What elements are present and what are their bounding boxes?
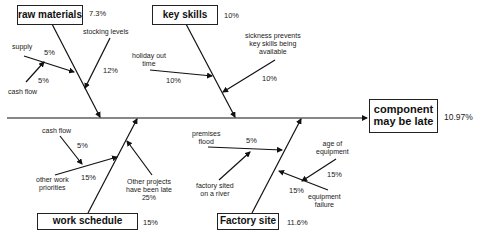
- cause-percent: 10%: [262, 74, 277, 83]
- cause-line: sickness prevents: [245, 32, 301, 40]
- key-skills-bone: [186, 24, 235, 117]
- cause-supply: supply: [12, 43, 32, 51]
- category-percent: 7.3%: [89, 9, 106, 18]
- cause-percent: 5%: [77, 141, 88, 150]
- cause-line: on a river: [196, 190, 234, 198]
- effect-percent: 10.97%: [444, 112, 473, 122]
- cause-line: other work: [36, 176, 69, 184]
- cause-line: equipment: [316, 148, 349, 156]
- cause-percent: 5%: [246, 136, 257, 145]
- cause-sickness: sickness prevents key skills being avail…: [245, 32, 301, 56]
- cause-percent: 25%: [126, 194, 172, 202]
- cause-line: available: [245, 48, 301, 56]
- category-percent: 11.6%: [287, 218, 308, 227]
- category-raw-materials: raw materials: [17, 5, 83, 25]
- raw-materials-bone: [52, 24, 100, 117]
- cause-line: equipment: [308, 193, 341, 201]
- cause-line: factory sited: [196, 182, 234, 190]
- category-label: work schedule: [53, 216, 122, 227]
- cause-equipment-failure: equipment failure: [308, 193, 341, 209]
- category-percent: 15%: [143, 218, 158, 227]
- cause-line: premises: [192, 130, 220, 138]
- cause-other-projects-late: Other projects have been late 25%: [126, 178, 172, 202]
- category-work-schedule: work schedule: [37, 213, 138, 230]
- category-key-skills: key skills: [152, 5, 218, 25]
- cause-line: failure: [308, 201, 341, 209]
- cause-percent: 5%: [44, 48, 55, 57]
- category-label: Factory site: [220, 216, 276, 227]
- factory-site-bone: [252, 119, 301, 213]
- effect-line2: may be late: [374, 116, 434, 128]
- category-label: key skills: [163, 10, 207, 21]
- cause-percent: 15%: [289, 186, 304, 195]
- cause-line: key skills being: [245, 40, 301, 48]
- cause-line: have been late: [126, 186, 172, 194]
- cause-factory-on-river: factory sited on a river: [196, 182, 234, 198]
- cause-cash-flow: cash flow: [8, 88, 37, 96]
- cause-premises-flood: premises flood: [192, 130, 220, 146]
- cause-percent: 5%: [38, 76, 49, 85]
- category-percent: 10%: [224, 11, 239, 20]
- effect-box: component may be late: [369, 99, 438, 133]
- cause-holiday-out-time: holiday out time: [132, 52, 166, 68]
- cause-other-work-priorities: other work priorities: [36, 176, 69, 192]
- cause-cash-flow: cash flow: [42, 127, 71, 135]
- cause-percent: 10%: [166, 76, 181, 85]
- cause-line: time: [132, 60, 166, 68]
- cause-line: priorities: [36, 184, 69, 192]
- cause-line: flood: [192, 138, 220, 146]
- category-label: raw materials: [18, 10, 82, 21]
- cause-percent: 15%: [81, 173, 96, 182]
- cause-line: holiday out: [132, 52, 166, 60]
- cause-age-of-equipment: age of equipment: [316, 140, 349, 156]
- cause-line: age of: [316, 140, 349, 148]
- cause-line: Other projects: [126, 178, 172, 186]
- category-factory-site: Factory site: [217, 213, 279, 230]
- cause-percent: 15%: [327, 170, 342, 179]
- cause-stocking-levels: stocking levels: [83, 28, 129, 36]
- cause-percent: 12%: [103, 66, 118, 75]
